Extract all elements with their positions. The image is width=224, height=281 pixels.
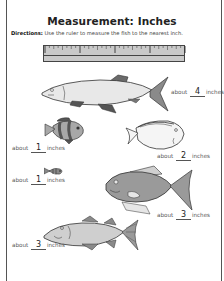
answer-blank[interactable]: 1 [31, 176, 46, 185]
answer-long-silver-fish: about 4inches [171, 88, 224, 97]
directions-label: Directions: [11, 30, 43, 36]
ruler [43, 45, 185, 62]
answer-blank[interactable]: 3 [31, 241, 46, 250]
striped-clownfish [43, 116, 85, 144]
long-silver-fish [40, 73, 170, 115]
answer-spotted-cod: about 3inches [12, 241, 65, 250]
ruler-ticks [44, 46, 186, 55]
white-angelfish [124, 118, 186, 152]
answer-blank[interactable]: 4 [190, 88, 205, 97]
directions-text: Use the ruler to measure the fish to the… [43, 30, 183, 36]
answer-blank[interactable]: 1 [31, 144, 46, 153]
directions: Directions: Use the ruler to measure the… [11, 30, 183, 36]
answer-blank[interactable]: 3 [176, 211, 191, 220]
ruler-midline [44, 55, 184, 56]
answer-white-angelfish: about 2inches [157, 152, 210, 161]
tiny-fish [44, 166, 64, 176]
worksheet-title: Measurement: Inches [0, 15, 224, 27]
answer-gray-bass: about 3inches [157, 211, 210, 220]
answer-tiny-fish: about 1inches [12, 176, 65, 185]
answer-blank[interactable]: 2 [176, 152, 191, 161]
answer-striped-clownfish: about 1inches [12, 144, 65, 153]
